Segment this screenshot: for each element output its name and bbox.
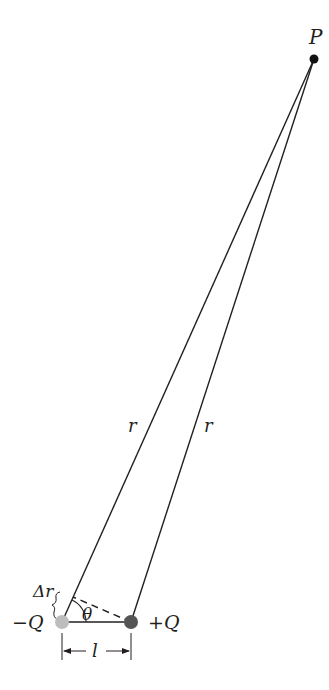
positive-charge-label: +Q bbox=[148, 611, 180, 633]
negative-charge-label: −Q bbox=[12, 611, 44, 633]
r-label-left: r bbox=[128, 415, 138, 436]
line-positive-to-p bbox=[131, 59, 314, 622]
r-label-right: r bbox=[204, 415, 214, 436]
dim-arrow-right-head bbox=[122, 648, 130, 654]
dipole-diagram: P r r Δr θ −Q +Q l bbox=[0, 0, 329, 690]
separation-label: l bbox=[92, 640, 98, 661]
positive-charge bbox=[124, 615, 138, 629]
dim-arrow-left-head bbox=[63, 648, 71, 654]
line-negative-to-p bbox=[62, 59, 314, 622]
point-p-dot bbox=[310, 55, 319, 64]
point-p-label: P bbox=[308, 25, 323, 49]
delta-r-label: Δr bbox=[32, 581, 54, 601]
negative-charge bbox=[55, 615, 69, 629]
theta-label: θ bbox=[82, 604, 92, 624]
